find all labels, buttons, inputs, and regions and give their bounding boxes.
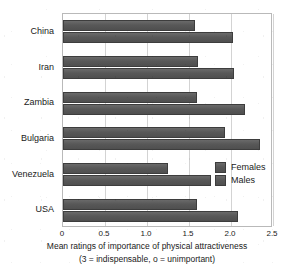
bar-group bbox=[63, 56, 271, 79]
y-axis-labels: ChinaIranZambiaBulgariaVenezuelaUSA bbox=[0, 13, 58, 227]
x-tick-label-0.5: 0.5 bbox=[98, 229, 109, 239]
x-tick-label-2.0: 2.0 bbox=[224, 229, 235, 239]
x-axis-ticks: 00.51.01.52.02.5 bbox=[62, 229, 272, 241]
x-tick-label-2.5: 2.5 bbox=[266, 229, 277, 239]
bar-group bbox=[63, 20, 271, 43]
gridline-2.5 bbox=[273, 14, 274, 226]
x-tick-label-0: 0 bbox=[60, 229, 64, 239]
legend-swatch-males bbox=[215, 175, 226, 186]
y-axis-label-iran: Iran bbox=[38, 62, 54, 72]
bar-females-bulgaria bbox=[63, 127, 225, 138]
bar-females-venezuela bbox=[63, 163, 168, 174]
legend-swatch-females bbox=[215, 162, 226, 173]
legend-item-males: Males bbox=[215, 174, 273, 187]
bar-females-zambia bbox=[63, 92, 197, 103]
legend-label-males: Males bbox=[231, 175, 255, 186]
y-axis-label-zambia: Zambia bbox=[24, 97, 54, 107]
bar-group bbox=[63, 199, 271, 222]
x-axis-label: Mean ratings of importance of physical a… bbox=[0, 241, 294, 252]
y-axis-label-venezuela: Venezuela bbox=[12, 169, 54, 179]
bar-males-iran bbox=[63, 68, 234, 79]
bar-males-bulgaria bbox=[63, 139, 260, 150]
plot-area bbox=[62, 13, 272, 227]
legend-label-females: Females bbox=[231, 162, 266, 173]
bars-layer bbox=[63, 14, 271, 226]
y-axis-label-bulgaria: Bulgaria bbox=[21, 133, 54, 143]
bar-males-usa bbox=[63, 211, 238, 222]
bar-group bbox=[63, 127, 271, 150]
bar-females-usa bbox=[63, 199, 197, 210]
x-axis-sublabel: (3 = indispensable, o = unimportant) bbox=[0, 254, 294, 265]
chart-legend: Females Males bbox=[215, 161, 273, 187]
bar-group bbox=[63, 92, 271, 115]
legend-item-females: Females bbox=[215, 161, 273, 174]
x-tick-label-1.0: 1.0 bbox=[140, 229, 151, 239]
bar-females-iran bbox=[63, 56, 198, 67]
bar-females-china bbox=[63, 20, 195, 31]
bar-males-zambia bbox=[63, 104, 245, 115]
chart-figure: ChinaIranZambiaBulgariaVenezuelaUSA 00.5… bbox=[0, 0, 294, 277]
bar-males-china bbox=[63, 32, 233, 43]
x-tick-label-1.5: 1.5 bbox=[182, 229, 193, 239]
y-axis-label-usa: USA bbox=[35, 204, 54, 214]
y-axis-label-china: China bbox=[30, 26, 54, 36]
bar-males-venezuela bbox=[63, 175, 211, 186]
